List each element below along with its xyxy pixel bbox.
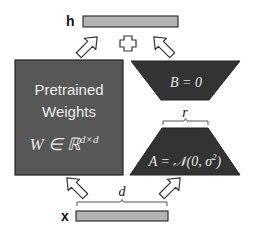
matrix-a-formula: A = 𝒩(0, σ2) <box>148 152 222 170</box>
input-vector-bar <box>76 211 168 221</box>
pretrained-label-line2: Weights <box>42 103 96 120</box>
arrow-pretrained-to-h-icon <box>73 31 103 61</box>
arrow-x-to-pretrained-icon <box>61 172 91 202</box>
arrow-b-to-h-icon <box>148 31 178 61</box>
output-vector-bar <box>83 16 178 27</box>
pretrained-label-line1: Pretrained <box>34 81 103 98</box>
input-label-x: x <box>61 208 69 224</box>
lora-diagram: h Pretrained Weights W ∈ ℝd×d B = 0 r A … <box>0 0 257 237</box>
output-label-h: h <box>66 13 75 29</box>
rank-label-r: r <box>182 105 188 120</box>
dim-label-d: d <box>119 184 127 199</box>
plus-icon <box>120 36 136 51</box>
dim-brace <box>77 200 167 207</box>
matrix-b-formula: B = 0 <box>170 75 202 90</box>
arrow-x-to-a-icon <box>156 172 186 202</box>
